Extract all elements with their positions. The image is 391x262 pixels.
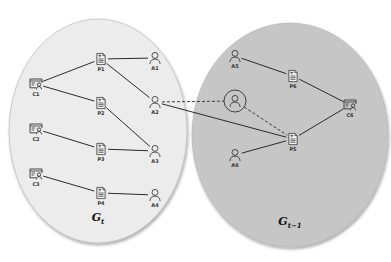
node-label: P3 — [97, 156, 105, 162]
node-p1: P1 — [97, 53, 105, 72]
document-icon — [97, 53, 105, 64]
node-p2: P2 — [97, 97, 105, 116]
node-label: C6 — [346, 112, 354, 118]
graph-regions — [9, 19, 388, 247]
node-label: C2 — [32, 136, 40, 142]
graph-region-gt — [9, 19, 187, 243]
node-label: P6 — [289, 83, 297, 89]
node-label: A5 — [231, 63, 239, 69]
document-icon — [97, 97, 105, 108]
document-icon — [289, 70, 297, 81]
node-label: A3 — [151, 158, 159, 164]
node-label: P2 — [97, 110, 105, 116]
document-icon — [97, 143, 105, 154]
document-icon — [97, 187, 105, 198]
node-label: A6 — [231, 162, 239, 168]
node-label: A4 — [151, 202, 159, 208]
node-label: A1 — [151, 65, 159, 71]
node-p4: P4 — [97, 187, 105, 206]
node-label: P1 — [97, 66, 105, 72]
node-p5: P5 — [289, 133, 297, 152]
document-icon — [289, 133, 297, 144]
node-label: P4 — [97, 200, 105, 206]
node-label: A2 — [151, 109, 159, 115]
node-p3: P3 — [97, 143, 105, 162]
graph-label-subscript: t−1 — [288, 221, 302, 230]
diagram-canvas: C1C2C3P1P2P3P4A1A2A3A4A5A6P6P5C6 Gt−1Gt — [0, 0, 391, 262]
node-label: C3 — [32, 181, 40, 187]
node-p6: P6 — [289, 70, 297, 89]
node-label: P5 — [289, 146, 297, 152]
node-label: C1 — [32, 91, 40, 97]
